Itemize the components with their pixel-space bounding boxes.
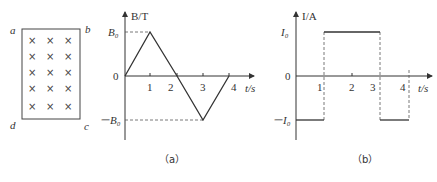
- panel-a-tick-3: 3: [200, 81, 206, 93]
- panel-b-tick-1: 1: [317, 81, 323, 93]
- panel-b-yneg: －I₀: [272, 114, 291, 126]
- svg-text:×: ×: [28, 83, 36, 94]
- svg-text:×: ×: [28, 101, 36, 112]
- svg-text:×: ×: [46, 67, 54, 78]
- svg-text:×: ×: [46, 83, 54, 94]
- panel-a-tick-1: 1: [147, 81, 153, 93]
- panel-b-tick-2: 2: [349, 81, 355, 93]
- panel-b-origin: 0: [285, 70, 291, 82]
- svg-text:×: ×: [46, 35, 54, 46]
- corner-d: d: [10, 119, 16, 131]
- panel-a-yneg: －B₀: [99, 114, 121, 126]
- panel-a-ypos: B₀: [108, 26, 119, 38]
- panel-b-xlabel: t/s: [418, 82, 428, 94]
- panel-a-xlabel: t/s: [245, 82, 255, 94]
- coil-loop: a b c d ××× ××× ××× ××× ×××: [10, 23, 91, 132]
- corner-c: c: [84, 120, 89, 132]
- field-into-page-symbols: ××× ××× ××× ××× ×××: [28, 35, 72, 112]
- panel-a-tick-4: 4: [231, 81, 237, 93]
- svg-text:×: ×: [64, 101, 72, 112]
- panel-b-ylabel: I/A: [302, 10, 317, 22]
- panel-a-chart: B/T t/s 0 B₀ －B₀ 1 2 3 4 （a）: [99, 10, 255, 165]
- svg-text:×: ×: [46, 51, 54, 62]
- panel-b-ypos: I₀: [280, 26, 289, 38]
- panel-a-caption: （a）: [159, 154, 185, 165]
- svg-text:×: ×: [28, 51, 36, 62]
- svg-text:×: ×: [46, 101, 54, 112]
- figure: a b c d ××× ××× ××× ××× ××× B/T t/s 0 B₀…: [0, 0, 437, 182]
- panel-b-tick-3: 3: [370, 81, 376, 93]
- panel-b-chart: I/A t/s 0 I₀ －I₀ 1 2 3 4 （b）: [272, 10, 432, 165]
- svg-text:×: ×: [28, 67, 36, 78]
- svg-text:×: ×: [64, 35, 72, 46]
- panel-b-caption: （b）: [352, 154, 378, 165]
- svg-text:×: ×: [64, 83, 72, 94]
- corner-a: a: [10, 24, 16, 36]
- svg-text:×: ×: [64, 67, 72, 78]
- panel-a-tick-2: 2: [168, 81, 174, 93]
- panel-b-tick-4: 4: [400, 81, 406, 93]
- corner-b: b: [85, 23, 91, 35]
- panel-a-ylabel: B/T: [131, 10, 148, 22]
- panel-a-origin: 0: [113, 70, 119, 82]
- svg-text:×: ×: [64, 51, 72, 62]
- svg-text:×: ×: [28, 35, 36, 46]
